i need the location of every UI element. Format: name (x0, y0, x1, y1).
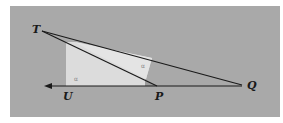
label-point-U: U (63, 90, 74, 103)
label-point-T: T (32, 23, 41, 36)
label-point-Q: Q (247, 79, 257, 92)
angle-mark-u: α (74, 75, 78, 82)
label-point-P: P (154, 90, 164, 103)
angle-mark-tq: α (141, 62, 145, 69)
geometry-diagram: α α T U P Q (0, 0, 283, 123)
